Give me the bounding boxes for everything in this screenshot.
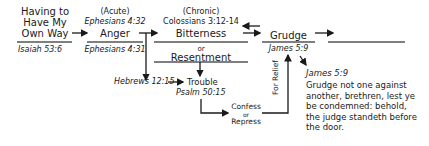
hebrews-ref: Hebrews 12:15 xyxy=(114,78,175,86)
anger-qualifier: (Acute) xyxy=(87,8,143,16)
origin-line3: Own Way xyxy=(17,28,73,39)
verse-line: the judge standeth before xyxy=(306,112,417,123)
trouble-label: Trouble xyxy=(187,78,218,87)
confess-label: Confess or Repress xyxy=(228,103,264,126)
grudge-label: Grudge xyxy=(262,31,315,41)
bitterness-label: Bitterness xyxy=(160,29,242,39)
verse-ref: James 5:9 xyxy=(306,69,348,78)
origin-ref: Isaiah 53:6 xyxy=(18,46,62,54)
arrow-grudge-verse xyxy=(300,56,306,65)
verse-line: the door. xyxy=(306,122,417,133)
verse-text: Grudge not one against another, brethren… xyxy=(306,80,417,133)
verse-line: Grudge not one against xyxy=(306,80,417,91)
bitterness-qualifier: (Chronic) xyxy=(160,8,242,16)
relief-label: For Relief xyxy=(272,60,280,95)
arrow-trouble-confess xyxy=(201,99,228,113)
bitterness-ref-top: Colossians 3:12-14 xyxy=(160,18,242,26)
verse-line: be condemned: behold, xyxy=(306,101,417,112)
anger-ref-top: Ephesians 4:32 xyxy=(84,18,146,26)
confess-line1: Confess xyxy=(228,103,264,111)
origin-label: Having to Have My Own Way xyxy=(17,6,73,39)
grudge-ref: James 5:9 xyxy=(262,45,315,53)
origin-line1: Having to xyxy=(17,6,73,17)
confess-line3: Repress xyxy=(228,118,264,126)
anger-label: Anger xyxy=(87,29,143,39)
origin-line2: Have My xyxy=(17,17,73,28)
resentment-label: Resentment xyxy=(160,53,242,63)
trouble-ref: Psalm 50:15 xyxy=(176,89,226,97)
anger-ref-bottom: Ephesians 4:31 xyxy=(84,46,146,54)
verse-line: another, brethren, lest ye xyxy=(306,91,417,102)
